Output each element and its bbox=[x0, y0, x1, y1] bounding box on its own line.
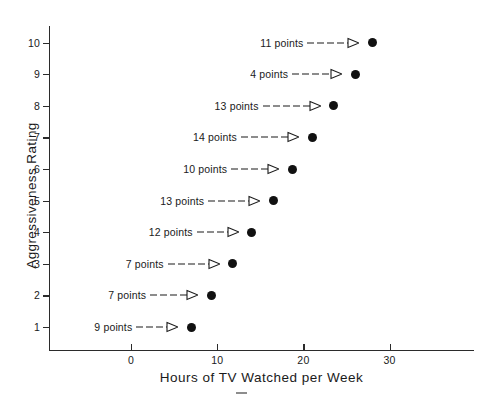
y-axis-tick-label: 1 bbox=[14, 321, 40, 333]
annotation-label: 13 points bbox=[215, 100, 259, 112]
data-point bbox=[207, 291, 216, 300]
y-axis-tick bbox=[43, 106, 50, 107]
y-axis-tick bbox=[43, 264, 50, 265]
x-axis-tick bbox=[390, 344, 391, 351]
point-annotation: 13 points bbox=[215, 100, 321, 112]
annotation-label: 13 points bbox=[160, 195, 204, 207]
annotation-arrow-icon bbox=[136, 321, 178, 333]
annotation-arrow-icon bbox=[168, 258, 220, 270]
point-annotation: 4 points bbox=[250, 68, 342, 80]
y-axis-tick bbox=[43, 201, 50, 202]
annotation-arrow-icon bbox=[197, 226, 239, 238]
annotation-label: 11 points bbox=[260, 37, 303, 49]
annotation-label: 7 points bbox=[108, 289, 146, 301]
data-point bbox=[368, 38, 377, 47]
annotation-label: 14 points bbox=[193, 131, 237, 143]
data-point bbox=[308, 133, 317, 142]
x-axis-tick-label: 20 bbox=[297, 354, 309, 366]
annotation-arrow-icon bbox=[231, 163, 279, 175]
annotation-label: 9 points bbox=[94, 321, 132, 333]
y-axis-tick bbox=[43, 327, 50, 328]
data-point bbox=[247, 228, 256, 237]
data-point bbox=[351, 70, 360, 79]
y-axis-tick bbox=[43, 169, 50, 170]
x-axis-tick bbox=[131, 344, 132, 351]
x-axis-tick-label: 30 bbox=[384, 354, 396, 366]
y-axis-title: Aggressiveness Rating bbox=[24, 86, 39, 306]
annotation-arrow-icon bbox=[292, 68, 342, 80]
x-axis-tick-label: 10 bbox=[211, 354, 223, 366]
ink-artifact bbox=[236, 392, 247, 394]
y-axis-tick-label: 10 bbox=[14, 37, 40, 49]
annotation-label: 7 points bbox=[126, 258, 164, 270]
data-point bbox=[187, 323, 196, 332]
point-annotation: 7 points bbox=[108, 289, 198, 301]
point-annotation: 14 points bbox=[193, 131, 299, 143]
data-point bbox=[329, 101, 338, 110]
y-axis-tick bbox=[43, 232, 50, 233]
annotation-arrow-icon bbox=[150, 289, 198, 301]
y-axis-tick bbox=[43, 137, 50, 138]
y-axis-tick bbox=[43, 295, 50, 296]
x-axis-tick-label: 0 bbox=[128, 354, 134, 366]
point-annotation: 13 points bbox=[160, 195, 260, 207]
x-axis-tick bbox=[303, 344, 304, 351]
annotation-label: 12 points bbox=[149, 226, 193, 238]
annotation-arrow-icon bbox=[241, 131, 299, 143]
y-axis-tick bbox=[43, 74, 50, 75]
annotation-arrow-icon bbox=[263, 100, 321, 112]
x-axis-tick bbox=[217, 344, 218, 351]
point-annotation: 10 points bbox=[183, 163, 279, 175]
x-axis-title: Hours of TV Watched per Week bbox=[49, 370, 474, 385]
annotation-label: 4 points bbox=[250, 68, 288, 80]
point-annotation: 12 points bbox=[149, 226, 239, 238]
data-point bbox=[288, 165, 297, 174]
annotation-arrow-icon bbox=[208, 195, 260, 207]
data-point bbox=[228, 259, 237, 268]
data-point bbox=[269, 196, 278, 205]
scatter-plot-figure: 12345678910 0102030 Aggressiveness Ratin… bbox=[0, 0, 482, 405]
point-annotation: 9 points bbox=[94, 321, 178, 333]
point-annotation: 11 points bbox=[260, 37, 359, 49]
annotation-arrow-icon bbox=[307, 37, 359, 49]
y-axis-tick-label: 9 bbox=[14, 68, 40, 80]
annotation-label: 10 points bbox=[183, 163, 227, 175]
y-axis-tick bbox=[43, 43, 50, 44]
point-annotation: 7 points bbox=[126, 258, 220, 270]
x-axis-line bbox=[49, 350, 474, 351]
